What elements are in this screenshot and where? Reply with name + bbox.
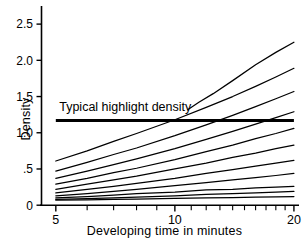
y-axis-title: Density [19,79,33,159]
y-tick-label-.5: .5 [23,162,33,176]
y-tick-label-2.5: 2.5 [16,17,33,31]
y-tick-label-0: 0 [26,199,33,213]
x-axis-title: Developing time in minutes [0,224,303,238]
annotation-group: Typical highlight density [59,100,192,114]
y-tick-label-2.0: 2.0 [16,54,33,68]
typical-highlight-density-label: Typical highlight density [59,100,192,114]
density-vs-developing-time-chart: 0.51.01.52.02.5 51020 Typical highlight … [0,0,303,246]
chart-container: 0.51.01.52.02.5 51020 Typical highlight … [0,0,303,246]
